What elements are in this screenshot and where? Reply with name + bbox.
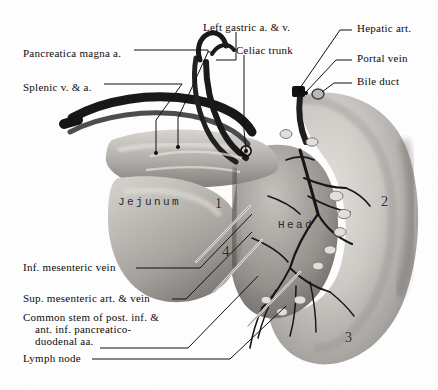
label-inf-mesenteric-vein: Inf. mesenteric vein (23, 262, 116, 274)
marker-region-3: 3 (345, 330, 352, 346)
splenic-marker (154, 151, 158, 155)
label-hepatic-art: Hepatic art. (357, 23, 411, 35)
anatomy-figure: Pancreatica magna a. Splenic v. & a. Lef… (0, 0, 438, 390)
pancreatica-magna-marker (176, 145, 180, 149)
marker-region-1: 1 (215, 196, 222, 212)
label-left-gastric: Left gastric a. & v. (203, 22, 290, 34)
label-lymph-node: Lymph node (23, 353, 81, 365)
celiac-trunk-marker-dot (244, 149, 248, 153)
label-bile-duct: Bile duct (357, 76, 399, 88)
overlay-head: Head (278, 219, 314, 231)
label-splenic-v-a: Splenic v. & a. (23, 82, 92, 94)
portal-vein-marker (304, 91, 308, 95)
label-celiac-trunk: Celiac trunk (236, 45, 293, 57)
label-portal-vein: Portal vein (357, 53, 408, 65)
label-common-stem-line1: Common stem of post. inf. & (23, 312, 159, 324)
label-common-stem-line3: duodenal aa. (35, 336, 94, 348)
label-pancreatica-magna: Pancreatica magna a. (23, 48, 121, 60)
marker-region-4: 4 (222, 243, 230, 260)
overlay-jejunum: Jejunum (118, 196, 181, 208)
marker-region-2: 2 (381, 194, 388, 210)
hepatic-art-marker (298, 87, 302, 91)
label-common-stem-line2: ant. inf. pancreatico- (35, 324, 132, 336)
label-sup-mesenteric: Sup. mesenteric art. & vein (23, 293, 150, 305)
